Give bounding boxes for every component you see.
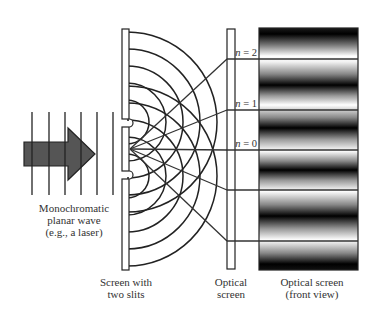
slit-1 [129, 119, 133, 127]
optical-screen-caption: Optical screen [215, 276, 247, 300]
slit-screen-caption: Screen with two slits [100, 276, 153, 300]
order-label-n0: n = 0 [235, 138, 257, 149]
wavefront-arc [127, 66, 183, 178]
slit-screen-bottom-segment [122, 179, 129, 270]
source-caption: Monochromatic planar wave (e.g., a laser… [39, 202, 109, 239]
front-view-caption-line: (front view) [286, 288, 339, 301]
slit-screen-caption-line: two slits [108, 288, 145, 300]
front-view-caption-line: Optical screen [280, 276, 344, 288]
slit-screen-top-segment [122, 29, 129, 119]
source-caption-line: planar wave [47, 214, 101, 226]
order-label-n1: n = 1 [235, 98, 257, 109]
front-view-caption: Optical screen (front view) [280, 276, 344, 301]
double-slit-diagram: n = 2 n = 1 n = 0 Monochromatic planar w… [0, 0, 372, 315]
optical-screen-caption-line: Optical [215, 276, 247, 288]
beam-arrow-icon [24, 128, 95, 180]
source-caption-line: Monochromatic [39, 202, 109, 214]
slit-screen-caption-line: Screen with [100, 276, 153, 288]
wavefront-arc [127, 120, 183, 232]
slit-2 [129, 171, 133, 179]
order-label-n2: n = 2 [235, 47, 257, 58]
ray-n2 [130, 59, 227, 149]
optical-screen-caption-line: screen [217, 288, 246, 300]
optical-screen-side [227, 29, 235, 269]
slit-screen-middle-segment [122, 127, 129, 171]
source-caption-line: (e.g., a laser) [45, 226, 102, 239]
optical-screen-front-view [259, 28, 358, 270]
wavefront-arc [127, 49, 200, 195]
diagram-svg: n = 2 n = 1 n = 0 Monochromatic planar w… [0, 0, 372, 315]
